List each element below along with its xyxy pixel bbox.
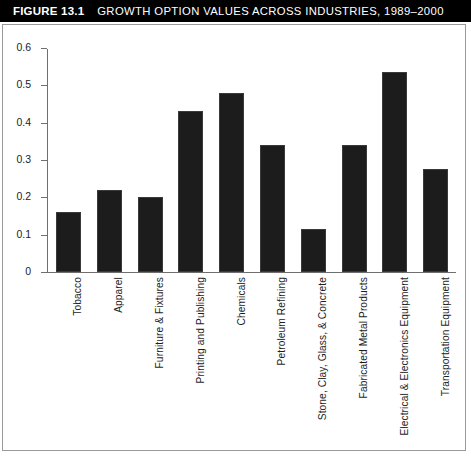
y-tick-label: 0.2 bbox=[2, 190, 31, 202]
y-tick-label: 0.5 bbox=[2, 78, 31, 90]
y-tick-mark bbox=[41, 123, 47, 124]
x-axis-label: Tobacco bbox=[72, 277, 83, 316]
bar bbox=[178, 111, 203, 272]
x-axis-label: Fabricated Metal Products bbox=[358, 277, 369, 398]
x-axis-label: Stone, Clay, Glass, & Concrete bbox=[317, 277, 328, 420]
y-tick-mark bbox=[41, 197, 47, 198]
y-tick-label: 0.4 bbox=[2, 116, 31, 128]
y-tick-mark bbox=[41, 160, 47, 161]
y-tick-mark bbox=[41, 235, 47, 236]
bar bbox=[423, 169, 448, 272]
x-axis-label: Printing and Publishing bbox=[195, 277, 206, 384]
x-axis-label: Transportation Equipment bbox=[440, 277, 451, 396]
bar bbox=[138, 197, 163, 272]
x-axis-label: Electrical & Electronics Equipment bbox=[399, 277, 410, 436]
bar bbox=[97, 190, 122, 272]
y-tick-mark bbox=[41, 272, 47, 273]
y-tick-mark bbox=[41, 85, 47, 86]
plot-area: 0.60.50.40.30.20.10 TobaccoApparelFurnit… bbox=[3, 25, 465, 450]
x-axis-label: Furniture & Fixtures bbox=[154, 277, 165, 368]
x-axis-line bbox=[47, 272, 456, 273]
x-axis-label: Apparel bbox=[113, 277, 124, 313]
bar bbox=[301, 229, 326, 272]
figure-title-text: GROWTH OPTION VALUES ACROSS INDUSTRIES, … bbox=[97, 5, 444, 17]
figure-title-bar: FIGURE 13.1 GROWTH OPTION VALUES ACROSS … bbox=[0, 0, 471, 22]
y-tick-label: 0 bbox=[2, 265, 31, 277]
x-axis-label: Petroleum Refining bbox=[276, 277, 287, 365]
y-tick-label: 0.3 bbox=[2, 153, 31, 165]
chart-frame: 0.60.50.40.30.20.10 TobaccoApparelFurnit… bbox=[2, 24, 466, 451]
y-tick-mark bbox=[41, 48, 47, 49]
y-axis-line bbox=[47, 49, 48, 273]
y-tick-label: 0.1 bbox=[2, 228, 31, 240]
bar bbox=[219, 93, 244, 272]
bar bbox=[382, 72, 407, 272]
y-tick-label: 0.6 bbox=[2, 41, 31, 53]
figure-number-label: FIGURE 13.1 bbox=[13, 5, 84, 17]
figure-container: FIGURE 13.1 GROWTH OPTION VALUES ACROSS … bbox=[0, 0, 471, 471]
bar bbox=[56, 212, 81, 272]
bar bbox=[342, 145, 367, 272]
bar bbox=[260, 145, 285, 272]
x-axis-label: Chemicals bbox=[236, 277, 247, 325]
